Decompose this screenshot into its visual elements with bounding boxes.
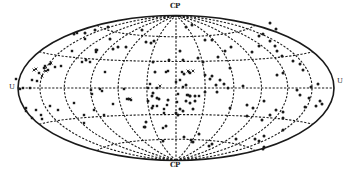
dot-marker [217,56,220,59]
dot-marker [179,50,182,53]
square-marker [179,79,181,81]
dot-marker [224,50,227,53]
dot-marker [107,26,110,29]
dot-marker [112,48,115,51]
dot-marker [262,148,265,151]
dot-marker [94,29,97,32]
square-marker [76,32,78,34]
dot-marker [211,143,214,146]
dot-marker [282,111,285,114]
dot-marker [317,83,320,86]
dot-marker [84,32,87,35]
dot-marker [109,38,112,41]
dot-marker [183,136,186,139]
square-marker [176,101,178,103]
dot-marker [192,141,195,144]
dot-marker [204,39,207,42]
dot-marker [177,114,180,117]
dot-marker [275,28,278,31]
label-left-edge: U [9,84,15,91]
dot-marker [281,55,284,58]
dot-marker [156,97,159,100]
square-marker [35,109,37,111]
dot-marker [211,75,214,78]
parallel-line [39,115,313,125]
square-marker [156,105,158,107]
square-marker [25,107,27,109]
dot-marker [258,140,261,143]
square-marker [182,86,184,88]
dot-marker [194,100,197,103]
square-marker [91,93,93,95]
square-marker [38,72,40,74]
dot-marker [299,94,302,97]
dot-marker [198,133,201,136]
square-marker [81,61,83,63]
square-marker [198,95,200,97]
square-marker [101,90,103,92]
square-marker [187,94,189,96]
dot-marker [304,106,307,109]
square-marker [90,89,92,91]
dot-marker [117,46,120,49]
dot-marker [182,110,185,113]
square-marker [181,71,183,73]
dot-marker [191,24,194,27]
square-marker [123,88,125,90]
dot-marker [185,100,188,103]
square-marker [71,50,73,52]
dot-marker [258,45,261,48]
dot-marker [263,100,266,103]
dot-marker [263,135,266,138]
square-marker [49,105,51,107]
dot-marker [262,33,265,36]
dot-marker [229,107,232,110]
square-marker [15,78,17,80]
dot-marker [308,97,311,100]
dot-marker [269,114,272,117]
square-marker [83,114,85,116]
dot-marker [215,84,218,87]
dot-marker [145,121,148,124]
square-marker [143,126,145,128]
square-marker [93,109,95,111]
square-marker [147,87,149,89]
dot-marker [216,91,219,94]
square-marker [31,117,33,119]
label-top-pole: CP [170,2,180,9]
dot-marker [152,92,155,95]
cross-marker [192,70,195,73]
dot-marker [204,74,207,77]
square-marker [149,83,151,85]
square-marker [89,61,91,63]
square-marker [22,87,24,89]
dot-marker [150,42,153,45]
dot-marker [167,99,170,102]
square-marker [166,104,168,106]
dot-marker [276,74,279,77]
dot-marker [282,129,285,132]
square-marker [36,80,38,82]
dot-marker [223,83,226,86]
square-marker [104,71,106,73]
square-marker [31,79,33,81]
dot-marker [197,57,200,60]
dot-marker [85,59,88,62]
square-marker [40,114,42,116]
dot-marker [165,125,168,128]
dot-marker [315,105,318,108]
dot-marker [299,63,302,66]
dot-marker [229,67,232,70]
dot-marker [269,22,272,25]
square-marker [44,65,46,67]
dot-marker [274,45,277,48]
square-marker [96,49,98,51]
square-marker [152,105,154,107]
label-bottom-pole: CP [170,161,180,168]
dot-marker [151,95,154,98]
square-marker [167,70,169,72]
dot-marker [258,35,261,38]
dot-marker [209,78,212,81]
dot-marker [211,39,214,42]
dot-marker [310,86,313,89]
